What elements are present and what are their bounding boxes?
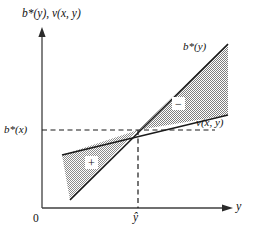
positive-region-sign: + <box>85 156 98 169</box>
x-axis-label: y <box>236 200 241 212</box>
positive-region-shading <box>62 130 138 200</box>
y-axis-label: b*(y), v(x, y) <box>22 8 81 20</box>
y-hat-tick-label: ŷ <box>133 212 138 224</box>
b-star-y-label: b*(y) <box>183 41 206 52</box>
x-axis-arrowhead <box>222 204 233 211</box>
v-x-y-label: v(x, y) <box>196 117 223 128</box>
origin-label: 0 <box>33 213 39 225</box>
figure-canvas: b*(y), v(x, y) b*(y) v(x, y) b*(x) 0 ŷ y… <box>0 0 253 237</box>
negative-region-sign: − <box>172 97 185 110</box>
b-star-x-tick-label: b*(x) <box>4 124 27 135</box>
y-axis-arrowhead <box>38 27 45 37</box>
